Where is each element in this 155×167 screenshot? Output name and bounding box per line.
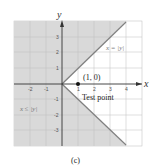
x-axis-label: x	[143, 78, 149, 89]
graph: -2 -1 1 2 3 4 3 2 1 -1 -2 -3 x y x = |y|…	[0, 0, 155, 167]
svg-text:-2: -2	[54, 112, 59, 118]
svg-text:3: 3	[109, 86, 112, 92]
point-label: (1, 0)	[83, 73, 101, 82]
svg-text:-2: -2	[28, 86, 33, 92]
svg-text:-1: -1	[44, 86, 49, 92]
svg-text:4: 4	[125, 86, 128, 92]
svg-text:1: 1	[77, 86, 80, 92]
caption: (c)	[71, 156, 80, 165]
svg-text:2: 2	[93, 86, 96, 92]
y-axis-label: y	[56, 9, 62, 20]
svg-text:1: 1	[56, 65, 59, 71]
svg-text:-1: -1	[54, 96, 59, 102]
svg-text:3: 3	[56, 34, 59, 40]
test-point-label: Test point	[82, 93, 114, 102]
region-label: x ≤ |y|	[19, 105, 37, 113]
boundary-label: x = |y|	[105, 44, 124, 52]
svg-text:-3: -3	[54, 127, 59, 133]
svg-text:2: 2	[56, 49, 59, 55]
test-point-marker	[76, 82, 80, 86]
